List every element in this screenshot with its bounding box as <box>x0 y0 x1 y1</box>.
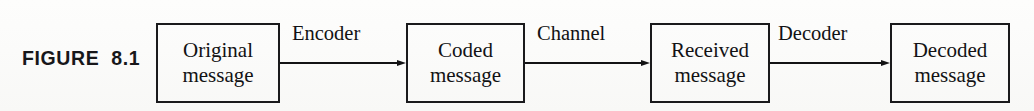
node-coded-message: Coded message <box>406 23 525 103</box>
node-label-line1: Decoded <box>913 38 988 63</box>
arrowhead-icon <box>641 60 650 66</box>
arrow-label-decoder: Decoder <box>778 22 847 45</box>
arrow-channel <box>525 60 650 66</box>
node-label-line1: Original <box>183 38 253 63</box>
node-received-message: Received message <box>650 23 770 103</box>
arrow-shaft <box>280 62 398 64</box>
node-decoded-message: Decoded message <box>890 23 1010 103</box>
node-label-line1: Coded <box>438 38 493 63</box>
node-label-line2: message <box>914 63 985 88</box>
arrow-label-channel: Channel <box>537 22 605 45</box>
arrowhead-icon <box>397 60 406 66</box>
arrow-shaft <box>770 62 882 64</box>
arrow-encoder <box>280 60 406 66</box>
node-label-line1: Received <box>671 38 749 63</box>
node-label-line2: message <box>674 63 745 88</box>
arrow-decoder <box>770 60 890 66</box>
node-label-line2: message <box>430 63 501 88</box>
figure-label: FIGURE 8.1 <box>22 47 140 70</box>
arrow-shaft <box>525 62 642 64</box>
node-original-message: Original message <box>156 23 280 103</box>
arrow-label-encoder: Encoder <box>292 22 360 45</box>
arrowhead-icon <box>881 60 890 66</box>
node-label-line2: message <box>182 63 253 88</box>
figure-8-1: FIGURE 8.1 Original message Coded messag… <box>0 0 1034 111</box>
